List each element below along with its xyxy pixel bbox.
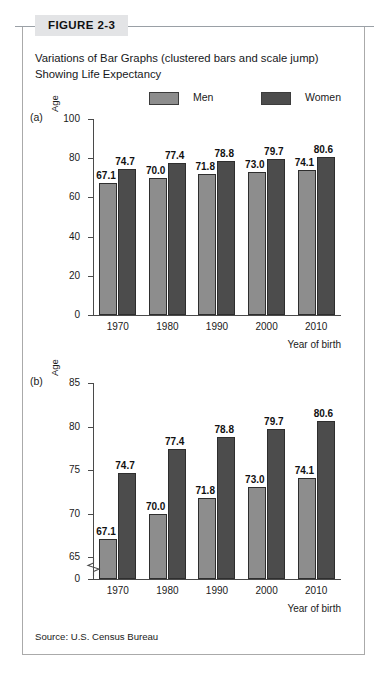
y-tick-label: 65 <box>69 552 80 562</box>
bar-group: 71.878.8 <box>192 119 242 315</box>
bar-group: 70.077.4 <box>143 119 193 315</box>
bar-value-label: 74.1 <box>295 465 314 476</box>
bar-value-label: 74.7 <box>115 156 134 167</box>
x-tick-label: 1980 <box>143 585 193 596</box>
bar-value-label: 79.7 <box>264 146 283 157</box>
x-tick-label: 2010 <box>291 585 341 596</box>
legend-label-women: Women <box>305 91 341 104</box>
bar-women-1970[interactable] <box>118 473 136 579</box>
bar-value-label: 74.7 <box>115 460 134 471</box>
y-tick: 80 <box>88 427 94 428</box>
panel-a-bars: 67.174.770.077.471.878.873.079.774.180.6 <box>93 119 341 315</box>
x-tick-label: 1980 <box>143 321 193 332</box>
bar-men-2000[interactable] <box>248 487 266 579</box>
legend-label-men: Men <box>193 91 213 104</box>
bar-value-label: 74.1 <box>295 157 314 168</box>
y-tick-label: 80 <box>69 422 80 432</box>
x-tick-label: 2000 <box>242 585 292 596</box>
bar-group: 70.077.4 <box>143 383 193 579</box>
bar-men-2010[interactable] <box>298 170 316 315</box>
y-tick: 85 <box>88 383 94 384</box>
panel-b-x-axis <box>93 579 341 580</box>
y-tick-label: 100 <box>63 114 80 124</box>
bar-value-label: 71.8 <box>195 485 214 496</box>
bar-women-2000[interactable] <box>267 159 285 315</box>
bar-men-1970[interactable] <box>99 539 117 579</box>
y-tick-label: 40 <box>69 232 80 242</box>
axis-break-icon <box>86 558 101 576</box>
y-tick-label: 60 <box>69 192 80 202</box>
bar-men-2000[interactable] <box>248 172 266 315</box>
panel-b-label: (b) <box>30 375 43 387</box>
y-tick-label: 70 <box>69 509 80 519</box>
panel-a-y-axis-title: Age <box>49 95 60 112</box>
bar-value-label: 67.1 <box>96 526 115 537</box>
bar-value-label: 80.6 <box>314 144 333 155</box>
figure-header: FIGURE 2-3 <box>23 15 366 39</box>
bar-value-label: 73.0 <box>245 159 264 170</box>
bar-men-1970[interactable] <box>99 183 117 315</box>
bar-group: 67.174.7 <box>93 119 143 315</box>
bar-men-2010[interactable] <box>298 478 316 579</box>
y-tick: 70 <box>88 514 94 515</box>
legend: Men Women <box>35 91 355 107</box>
x-tick-label: 2010 <box>291 321 341 332</box>
bar-group: 73.079.7 <box>242 383 292 579</box>
x-tick-label: 1990 <box>192 585 242 596</box>
panel-a-x-axis-title: Year of birth <box>287 339 341 350</box>
x-tick-label: 1970 <box>93 321 143 332</box>
panel-b-y-axis-title: Age <box>49 359 60 376</box>
bar-men-1990[interactable] <box>198 498 216 579</box>
panel-a-label: (a) <box>30 111 43 123</box>
y-tick: 60 <box>88 197 94 198</box>
panel-a-plot-area: 67.174.770.077.471.878.873.079.774.180.6… <box>93 119 341 315</box>
y-tick-label: 80 <box>69 153 80 163</box>
bar-value-label: 71.8 <box>195 161 214 172</box>
panel-b-x-axis-title: Year of birth <box>287 603 341 614</box>
figure-container: FIGURE 2-3 Variations of Bar Graphs (clu… <box>22 26 365 655</box>
bar-group: 71.878.8 <box>192 383 242 579</box>
y-tick-label: 75 <box>69 465 80 475</box>
y-tick: 100 <box>88 119 94 120</box>
legend-swatch-men <box>149 92 179 105</box>
x-tick-label: 1970 <box>93 585 143 596</box>
y-tick: 20 <box>88 276 94 277</box>
bar-women-2010[interactable] <box>317 157 335 315</box>
bar-value-label: 77.4 <box>165 150 184 161</box>
bar-value-label: 79.7 <box>264 416 283 427</box>
y-tick: 80 <box>88 158 94 159</box>
panel-b-bars: 67.174.770.077.471.878.873.079.774.180.6 <box>93 383 341 579</box>
bar-men-1980[interactable] <box>149 514 167 580</box>
panel-b-plot-area: 67.174.770.077.471.878.873.079.774.180.6… <box>93 383 341 579</box>
bar-women-2000[interactable] <box>267 429 285 579</box>
figure-number-label: FIGURE 2-3 <box>35 15 128 36</box>
bar-group: 74.180.6 <box>291 383 341 579</box>
bar-group: 67.174.7 <box>93 383 143 579</box>
figure-title: Variations of Bar Graphs (clustered bars… <box>35 51 355 82</box>
y-tick: 0 <box>88 315 94 316</box>
y-tick: 40 <box>88 237 94 238</box>
bar-value-label: 78.8 <box>214 148 233 159</box>
bar-value-label: 73.0 <box>245 474 264 485</box>
bar-women-1980[interactable] <box>168 163 186 315</box>
y-tick-label: 85 <box>69 378 80 388</box>
bar-value-label: 78.8 <box>214 424 233 435</box>
bar-men-1990[interactable] <box>198 174 216 315</box>
bar-men-1980[interactable] <box>149 178 167 315</box>
bar-women-1990[interactable] <box>217 161 235 315</box>
bar-value-label: 70.0 <box>146 501 165 512</box>
bar-women-1970[interactable] <box>118 169 136 315</box>
bar-value-label: 67.1 <box>96 170 115 181</box>
bar-women-1990[interactable] <box>217 437 235 579</box>
bar-women-2010[interactable] <box>317 421 335 579</box>
x-tick-label: 2000 <box>242 321 292 332</box>
y-tick-label: 20 <box>69 271 80 281</box>
legend-swatch-women <box>261 92 291 105</box>
chart-panel-b: (b) Age 67.174.770.077.471.878.873.079.7… <box>23 375 366 625</box>
bar-women-1980[interactable] <box>168 449 186 579</box>
chart-panel-a: (a) Age 67.174.770.077.471.878.873.079.7… <box>23 111 366 361</box>
y-tick-label: 0 <box>74 310 80 320</box>
figure-source: Source: U.S. Census Bureau <box>35 631 158 642</box>
x-tick-label: 1990 <box>192 321 242 332</box>
figure-page: FIGURE 2-3 Variations of Bar Graphs (clu… <box>0 0 386 676</box>
